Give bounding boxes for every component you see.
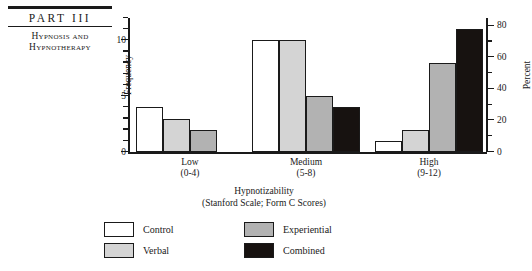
x-axis-category-low: Low(0-4)	[150, 157, 230, 179]
x-axis-title-line-1: Hypnotizability	[0, 186, 528, 198]
legend-label-control: Control	[143, 224, 174, 235]
y-axis-right-tick	[487, 88, 494, 89]
legend-item-verbal: Verbal	[104, 243, 244, 258]
y-axis-left-tick	[123, 17, 128, 18]
category-name: High	[389, 157, 469, 168]
category-name: Medium	[266, 157, 346, 168]
y-axis-right-tick	[487, 119, 494, 120]
bar-high-verbal	[402, 130, 429, 152]
y-axis-right-tick	[487, 104, 492, 105]
bar-low-control	[136, 107, 163, 152]
y-axis-left-title: Frequency	[123, 55, 133, 95]
y-axis-right-tick-label: 0	[497, 148, 502, 158]
category-range: (9-12)	[389, 168, 469, 179]
bar-medium-verbal	[279, 40, 306, 152]
y-axis-right-tick	[487, 72, 492, 73]
legend-label-verbal: Verbal	[143, 245, 169, 256]
y-axis-right-tick-label: 20	[497, 116, 507, 126]
y-axis-right-tick-label: 80	[497, 21, 507, 31]
legend-swatch-verbal	[104, 243, 134, 258]
legend-item-combined: Combined	[244, 243, 399, 258]
y-axis-left-tick-label: 10	[117, 36, 127, 46]
bar-medium-experiential	[306, 96, 333, 152]
x-axis-category-medium: Medium(5-8)	[266, 157, 346, 179]
bar-high-combined	[456, 29, 483, 152]
legend-swatch-combined	[244, 243, 274, 258]
y-axis-left-tick	[123, 128, 128, 129]
x-axis-title: Hypnotizability (Stanford Scale; Form C …	[0, 186, 528, 209]
x-axis-category-high: High(9-12)	[389, 157, 469, 179]
legend-swatch-experiential	[244, 222, 274, 237]
bar-low-experiential	[190, 130, 217, 152]
y-axis-left-tick	[123, 50, 128, 51]
x-axis-line	[128, 152, 487, 154]
category-name: Low	[150, 157, 230, 168]
category-range: (5-8)	[266, 168, 346, 179]
bar-medium-control	[252, 40, 279, 152]
y-axis-right-tick-label: 40	[497, 84, 507, 94]
y-axis-right-title: Percent	[522, 61, 532, 90]
y-axis-right-tick	[487, 40, 492, 41]
bar-high-experiential	[429, 63, 456, 152]
plot-area: 0510 020406080 Frequency Percent	[128, 18, 487, 152]
chart-legend: ControlExperientialVerbalCombined	[104, 219, 424, 261]
legend-item-control: Control	[104, 222, 244, 237]
y-axis-right-tick	[487, 56, 494, 57]
y-axis-left-tick	[123, 117, 128, 118]
x-axis-title-line-2: (Stanford Scale; Form C Scores)	[0, 198, 528, 210]
y-axis-left-tick	[123, 106, 128, 107]
y-axis-right-tick	[487, 135, 492, 136]
legend-item-experiential: Experiential	[244, 222, 399, 237]
y-axis-right-tick-label: 60	[497, 53, 507, 63]
bar-high-control	[375, 141, 402, 152]
y-axis-left-tick-label: 0	[121, 148, 126, 158]
legend-label-combined: Combined	[283, 245, 325, 256]
bar-low-verbal	[163, 119, 190, 153]
y-axis-left-tick	[123, 140, 128, 141]
bar-medium-combined	[333, 107, 360, 152]
category-range: (0-4)	[150, 168, 230, 179]
y-axis-right-tick	[487, 151, 494, 152]
legend-label-experiential: Experiential	[283, 224, 332, 235]
y-axis-left-tick	[123, 28, 128, 29]
y-axis-right-tick	[487, 25, 494, 26]
legend-swatch-control	[104, 222, 134, 237]
